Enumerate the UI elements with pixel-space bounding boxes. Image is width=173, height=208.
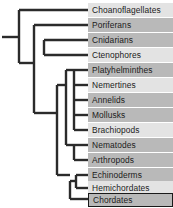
taxon-row[interactable]: Chordates	[88, 193, 173, 207]
taxon-row[interactable]: Echinoderms	[88, 168, 173, 182]
taxon-row[interactable]: Nemertines	[88, 78, 173, 92]
taxon-label: Nematodes	[88, 141, 136, 149]
taxon-row[interactable]: Arthropods	[88, 153, 173, 167]
taxon-label: Mollusks	[88, 111, 125, 119]
taxon-row[interactable]: Ctenophores	[88, 48, 173, 62]
taxon-row[interactable]: Poriferans	[88, 18, 173, 32]
taxon-row[interactable]: Brachiopods	[88, 123, 173, 137]
taxon-label: Platyhelminthes	[88, 66, 153, 74]
taxon-label: Arthropods	[88, 156, 134, 164]
taxon-label: Nemertines	[88, 81, 136, 89]
taxon-row[interactable]: Cnidarians	[88, 33, 173, 47]
taxon-label: Choanoflagellates	[88, 6, 161, 14]
taxon-row[interactable]: Nematodes	[88, 138, 173, 152]
taxon-label: Annelids	[88, 96, 125, 104]
taxon-label: Chordates	[89, 196, 133, 204]
taxon-label: Echinoderms	[88, 171, 142, 179]
taxon-row[interactable]: Annelids	[88, 93, 173, 107]
taxon-row[interactable]: Choanoflagellates	[88, 3, 173, 17]
taxon-row[interactable]: Mollusks	[88, 108, 173, 122]
taxon-label: Brachiopods	[88, 126, 140, 134]
taxon-label: Cnidarians	[88, 36, 133, 44]
taxon-label: Ctenophores	[88, 51, 141, 59]
taxon-row[interactable]: Platyhelminthes	[88, 63, 173, 77]
taxon-label: Poriferans	[88, 21, 131, 29]
taxon-label: Hemichordates	[88, 184, 150, 192]
